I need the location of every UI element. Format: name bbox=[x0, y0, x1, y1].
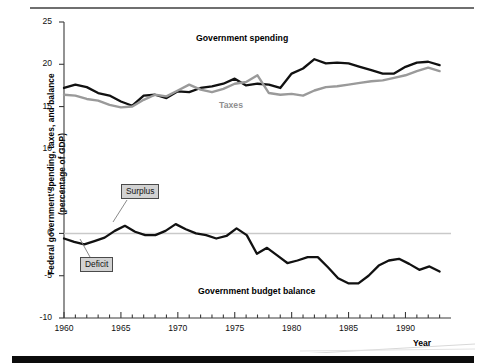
x-tick-label: 1985 bbox=[332, 323, 366, 333]
bottom-tail-decoration bbox=[300, 341, 475, 353]
y-tick-label: 15 bbox=[30, 101, 52, 111]
bottom-divider-rule bbox=[12, 356, 474, 363]
x-tick-label: 1975 bbox=[218, 323, 252, 333]
budget-chart-figure: Federal government spending, taxes, and … bbox=[0, 0, 477, 364]
y-tick-label: -10 bbox=[30, 312, 52, 322]
x-tick-label: 1970 bbox=[161, 323, 195, 333]
y-tick-label: 5 bbox=[30, 185, 52, 195]
x-tick-label: 1960 bbox=[47, 323, 81, 333]
x-tick-label: 1980 bbox=[275, 323, 309, 333]
y-tick-label: -5 bbox=[30, 270, 52, 280]
x-tick-label: 1990 bbox=[388, 323, 422, 333]
series-label-government-spending: Government spending bbox=[196, 33, 288, 43]
callout-surplus: Surplus bbox=[121, 184, 159, 199]
y-tick-label: 20 bbox=[30, 58, 52, 68]
y-tick-label: 25 bbox=[30, 16, 52, 26]
series-label-taxes: Taxes bbox=[219, 100, 243, 110]
y-tick-label: 10 bbox=[30, 143, 52, 153]
axes-layer bbox=[59, 22, 451, 318]
series-line-government-spending bbox=[64, 59, 440, 106]
plot-area bbox=[0, 0, 477, 364]
callout-deficit: Deficit bbox=[80, 257, 113, 272]
series-label-budget-balance: Government budget balance bbox=[198, 286, 315, 296]
x-tick-label: 1965 bbox=[104, 323, 138, 333]
y-tick-label: 0 bbox=[30, 227, 52, 237]
series-layer bbox=[64, 59, 440, 283]
